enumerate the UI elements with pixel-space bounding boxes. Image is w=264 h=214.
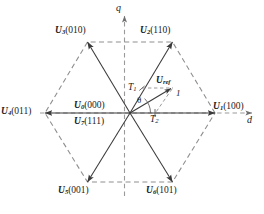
label-t2: T2: [150, 115, 159, 125]
label-vector-u4: U4(011): [1, 107, 31, 117]
q-axis-label: q: [116, 3, 121, 13]
label-vector-u0: U0(000): [74, 101, 105, 111]
label-u2-state: (110): [150, 25, 170, 35]
label-t1: T1: [128, 83, 137, 93]
label-t1-subscript: 1: [133, 85, 136, 92]
label-u6-state: (101): [156, 185, 177, 195]
label-u7-state: (111): [84, 116, 104, 126]
label-u7-symbol: U: [74, 116, 81, 126]
label-theta-angle: θ: [137, 96, 141, 105]
label-u3-symbol: U: [55, 25, 62, 35]
label-u0-symbol: U: [74, 100, 81, 110]
label-u5-symbol: U: [58, 185, 65, 195]
label-uref-subscript: ref: [163, 78, 171, 85]
label-uref-symbol: U: [156, 75, 163, 85]
label-reference-point: 1: [176, 89, 181, 98]
label-u1-symbol: U: [213, 101, 220, 111]
label-u0-state: (000): [84, 100, 105, 110]
label-u4-symbol: U: [1, 106, 8, 116]
label-vector-u5: U5(001): [58, 186, 89, 196]
label-u5-state: (001): [68, 185, 89, 195]
label-vector-u2: U2(110): [140, 26, 170, 36]
label-u6-symbol: U: [146, 185, 153, 195]
label-u2-symbol: U: [140, 25, 147, 35]
label-reference-vector: Uref: [156, 76, 171, 86]
label-vector-u6: U6(101): [146, 186, 177, 196]
label-vector-u7: U7(111): [74, 117, 104, 127]
label-vector-u1: U1(100): [213, 102, 244, 112]
figure-canvas: q d U3(010) U2(110) U4(011) U1(100) U0(0…: [0, 0, 264, 214]
voltage-vectors: [45, 42, 215, 182]
label-u1-state: (100): [223, 101, 244, 111]
label-u4-state: (011): [11, 106, 31, 116]
d-axis-label: d: [247, 115, 252, 125]
label-vector-u3: U3(010): [55, 26, 86, 36]
label-t2-subscript: 2: [155, 117, 158, 124]
label-u3-state: (010): [65, 25, 86, 35]
